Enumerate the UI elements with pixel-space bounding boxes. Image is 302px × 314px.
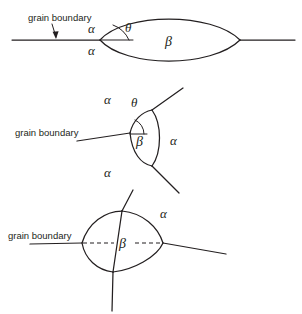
grain-boundary-diagram: grain boundary α α θ β grain boundary θ … (0, 0, 302, 314)
panel-1-annotation-arrow-head (53, 31, 59, 39)
panel-3-beta-label: β (118, 236, 126, 251)
panel-2-precipitate-edge-top-left (130, 110, 152, 133)
panel-3-quadruple-junction-precipitate: grain boundary α β (8, 190, 226, 311)
panel-2-grain-boundary-label: grain boundary (15, 127, 79, 138)
panel-3-precipitate-edge-upper-left (82, 211, 122, 243)
panel-2-alpha-label-top: α (104, 92, 112, 107)
panel-2-lower-right-grain-boundary-line (152, 166, 179, 193)
panel-2-alpha-label-bottom: α (104, 165, 112, 180)
panel-2-theta-arc (135, 120, 144, 134)
panel-2-triple-junction-precipitate: grain boundary θ α α α β (15, 88, 183, 193)
panel-2-upper-right-grain-boundary-line (152, 88, 183, 110)
panel-1-alpha-label-lower: α (88, 43, 96, 58)
panel-1-alpha-label-upper: α (88, 21, 96, 36)
panel-3-right-grain-boundary-line (163, 243, 226, 254)
panel-1-beta-label: β (164, 34, 172, 49)
panel-1-grain-boundary-label: grain boundary (28, 12, 92, 23)
panel-2-left-grain-boundary-line (77, 133, 130, 141)
panel-2-theta-label: θ (131, 95, 138, 110)
panel-3-precipitate-edge-upper-right (122, 211, 163, 243)
panel-3-upper-grain-boundary-line (122, 190, 133, 211)
panel-1-theta-label: θ (125, 20, 132, 35)
panel-2-beta-label: β (135, 134, 143, 149)
panel-2-precipitate-edge-right (152, 110, 160, 166)
panel-3-precipitate-edge-lower-left (82, 243, 113, 272)
panel-1-lens-precipitate: grain boundary α α θ β (12, 12, 295, 61)
panel-3-alpha-label-right: α (160, 206, 168, 221)
panel-3-lower-grain-boundary-line (112, 272, 113, 311)
panel-2-alpha-label-right: α (170, 133, 178, 148)
panel-3-grain-boundary-label: grain boundary (8, 230, 72, 241)
panel-3-left-grain-boundary-line (30, 243, 82, 244)
